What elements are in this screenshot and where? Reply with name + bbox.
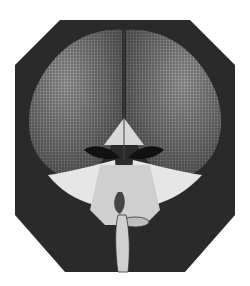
proboscis xyxy=(116,215,130,272)
fly-head-illustration xyxy=(0,0,250,286)
engraving-plate xyxy=(0,0,250,286)
